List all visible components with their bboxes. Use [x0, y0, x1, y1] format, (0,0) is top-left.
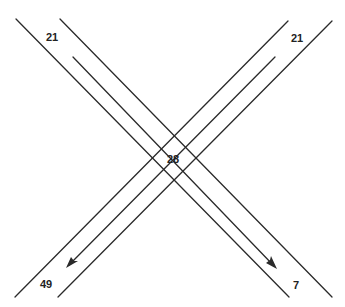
label-top-left: 21: [46, 32, 58, 43]
ne-sw-road-edge-left: [15, 21, 288, 297]
arrow-down-right-icon: [266, 256, 277, 269]
label-bottom-right: 7: [293, 280, 299, 291]
label-center: 28: [167, 154, 179, 165]
label-bottom-left: 49: [40, 279, 52, 290]
label-top-right: 21: [291, 33, 303, 44]
